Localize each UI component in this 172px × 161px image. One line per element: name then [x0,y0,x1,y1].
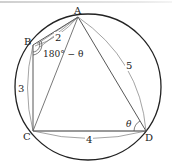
cyclic-quadrilateral-diagram: A B C D 2 3 4 5 180° − θ θ [0,0,172,161]
length-label-BC: 3 [18,83,24,94]
vertex-label-D: D [145,132,153,143]
length-label-CD: 4 [86,134,92,145]
angle-arc-B [33,41,42,55]
length-arc-BC [28,45,34,131]
side-DA [78,17,146,131]
angle-arc-B-inner [33,42,40,52]
length-label-DA: 5 [126,60,132,71]
vertex-label-B: B [24,36,31,47]
angle-arc-D [134,121,140,131]
angle-label-D: θ [126,119,132,129]
vertex-label-A: A [73,5,82,16]
length-label-AB: 2 [55,32,61,43]
angle-label-B: 180° − θ [43,49,83,59]
vertex-label-C: C [23,131,31,142]
